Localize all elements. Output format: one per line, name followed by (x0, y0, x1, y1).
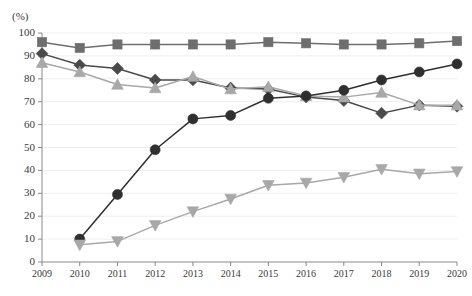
data-point-circle (226, 110, 236, 120)
y-tick-label: 20 (9, 209, 35, 221)
series-diamond-series (36, 48, 463, 119)
x-tick-label: 2013 (173, 268, 213, 279)
data-point-square (113, 40, 122, 49)
x-tick-label: 2015 (248, 268, 288, 279)
data-point-triangle-down (225, 194, 237, 205)
x-tick-label: 2020 (437, 268, 472, 279)
y-tick-label: 30 (9, 186, 35, 198)
data-point-circle (377, 75, 387, 85)
x-tick-label: 2019 (399, 268, 439, 279)
y-tick-label: 10 (9, 232, 35, 244)
data-point-triangle-down (74, 240, 86, 251)
data-point-circle (188, 114, 198, 124)
data-point-square (226, 40, 235, 49)
data-point-circle (263, 93, 273, 103)
x-tick-label: 2016 (286, 268, 326, 279)
gridlines (42, 33, 457, 239)
x-tick-label: 2010 (60, 268, 100, 279)
data-point-square (339, 40, 348, 49)
series-line (42, 63, 457, 105)
data-point-diamond (112, 63, 124, 75)
data-point-triangle-up (187, 71, 199, 82)
data-point-circle (150, 145, 160, 155)
data-point-square (188, 40, 197, 49)
y-tick-label: 100 (9, 26, 35, 38)
data-point-square (377, 40, 386, 49)
data-point-square (452, 36, 461, 45)
y-tick-label: 50 (9, 141, 35, 153)
series-line (42, 54, 457, 114)
data-point-circle (414, 67, 424, 77)
y-tick-label: 70 (9, 95, 35, 107)
data-point-triangle-down (263, 181, 275, 192)
x-tick-label: 2014 (211, 268, 251, 279)
data-point-square (151, 40, 160, 49)
x-tick-label: 2011 (97, 268, 137, 279)
data-point-square (75, 43, 84, 52)
y-tick-label: 80 (9, 72, 35, 84)
y-tick-label: 40 (9, 163, 35, 175)
series-square-series (37, 36, 461, 52)
x-tick-label: 2009 (22, 268, 62, 279)
data-point-square (264, 38, 273, 47)
data-point-triangle-up (36, 57, 48, 68)
data-point-triangle-up (112, 79, 124, 90)
x-tick-label: 2018 (362, 268, 402, 279)
y-tick-label: 60 (9, 118, 35, 130)
series-line (42, 41, 457, 48)
data-point-circle (452, 59, 462, 69)
data-point-circle (339, 85, 349, 95)
data-point-square (301, 39, 310, 48)
data-point-square (37, 38, 46, 47)
data-point-diamond (376, 107, 388, 119)
y-tick-label: 90 (9, 49, 35, 61)
data-point-triangle-up (376, 87, 388, 98)
data-point-circle (112, 189, 122, 199)
data-point-triangle-down (413, 169, 425, 180)
x-tick-label: 2017 (324, 268, 364, 279)
data-point-square (415, 39, 424, 48)
data-point-triangle-up (263, 81, 275, 92)
data-point-triangle-down (149, 221, 161, 232)
y-tick-label: 0 (9, 255, 35, 267)
data-point-circle (301, 91, 311, 101)
x-tick-label: 2012 (135, 268, 175, 279)
